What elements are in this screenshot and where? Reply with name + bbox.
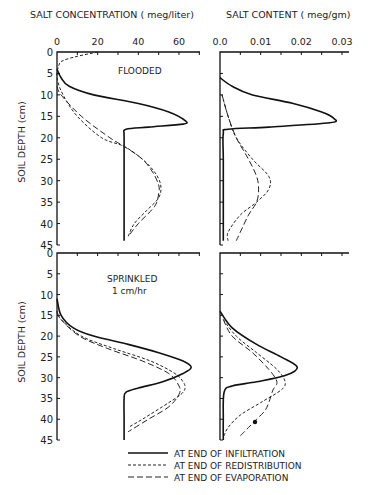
series-solid <box>57 69 187 241</box>
x-axis-label-concentration: SALT CONCENTRATION ( meg/liter) <box>30 9 194 20</box>
y-tick-label: 30 <box>40 176 53 187</box>
y-tick-label: 15 <box>40 310 53 321</box>
y-tick-label: 10 <box>40 290 53 301</box>
x-tick-label: 0 <box>54 36 60 47</box>
y-tick-label: 40 <box>40 414 53 425</box>
series-dotted <box>222 95 271 241</box>
salt-profile-chart: SALT CONCENTRATION ( meg/liter) SALT CON… <box>0 0 371 495</box>
y-tick-label: 5 <box>47 68 53 79</box>
y-tick-label: 45 <box>40 435 53 446</box>
panel-top-right <box>220 52 349 245</box>
x-tick-label: 0.01 <box>250 36 271 47</box>
x-tick-label: 0.03 <box>331 36 352 47</box>
series-dotted <box>57 52 161 236</box>
y-tick-label: 35 <box>40 197 53 208</box>
x-tick-label: 0.02 <box>291 36 312 47</box>
panel-label-flooded: FLOODED <box>118 66 162 76</box>
y-axis-label-bottom: SOIL DEPTH (cm) <box>16 301 27 383</box>
x-tick-label: 40 <box>132 36 144 47</box>
y-tick-label: 20 <box>40 133 53 144</box>
axes <box>220 253 349 440</box>
panel-label-sprinkled: SPRINKLED <box>107 274 157 284</box>
x-tick-label: 20 <box>92 36 104 47</box>
plot-panels: 051015202530354045051015202530354045 <box>40 47 349 446</box>
y-tick-label: 25 <box>40 154 53 165</box>
axes <box>220 52 349 245</box>
series-dashed <box>223 320 277 436</box>
y-tick-label: 5 <box>47 269 53 280</box>
series-solid <box>220 78 336 241</box>
y-tick-label: 40 <box>40 219 53 230</box>
series-solid <box>57 299 191 440</box>
y-tick-label: 35 <box>40 393 53 404</box>
legend-label: AT END OF EVAPORATION <box>174 473 288 483</box>
x-tick-labels: 02040600.00.010.020.03 <box>54 36 353 47</box>
x-tick-label: 60 <box>173 36 185 47</box>
legend-label: AT END OF INFILTRATION <box>174 449 285 459</box>
data-marker <box>253 420 257 424</box>
legend: AT END OF INFILTRATIONAT END OF REDISTRI… <box>128 449 302 483</box>
series-dashed <box>222 95 259 241</box>
panel-bottom-right <box>220 253 349 440</box>
y-tick-label: 30 <box>40 373 53 384</box>
y-tick-label: 25 <box>40 352 53 363</box>
y-tick-label: 0 <box>47 248 53 259</box>
y-tick-label: 0 <box>47 47 53 58</box>
y-tick-label: 20 <box>40 331 53 342</box>
series-solid <box>220 311 297 440</box>
x-axis-label-content: SALT CONTENT ( meg/gm) <box>226 9 351 20</box>
y-axis-label-top: SOIL DEPTH (cm) <box>16 101 27 183</box>
y-tick-label: 10 <box>40 90 53 101</box>
panel-top-left: 051015202530354045 <box>40 47 200 251</box>
legend-label: AT END OF REDISTRIBUTION <box>174 461 302 471</box>
x-tick-label: 0.0 <box>212 36 227 47</box>
panel-label-rate: 1 cm/hr <box>112 286 147 296</box>
y-tick-label: 15 <box>40 111 53 122</box>
